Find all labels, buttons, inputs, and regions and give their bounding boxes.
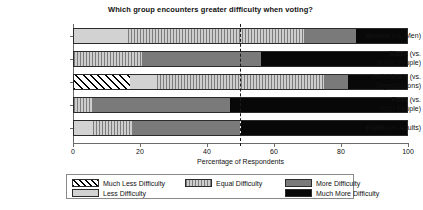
bar-segment-equal [73,51,142,67]
y-label-group: Poor [392,96,408,103]
legend-label: Equal Difficulty [216,180,262,187]
y-label-group: Youth [365,124,384,131]
x-axis-tick-label: 100 [393,148,423,155]
x-axis-tick [207,143,208,147]
y-axis-label: Youth (vs. Adults) [351,124,421,133]
y-axis-tick [70,105,73,106]
fifty-percent-reference-line [240,24,241,146]
y-axis-label: Women (vs. Men) [351,32,421,41]
bar-segment-less [73,28,128,44]
y-label-group: Individuals [371,73,408,80]
x-axis-title: Percentage of Respondents [73,158,408,165]
y-label-group: Women [365,32,390,39]
y-axis-tick [70,59,73,60]
y-label-comparison: (vs. [408,50,421,57]
legend-label: Less Difficulty [103,190,146,197]
legend-label: Much Less Difficulty [103,180,165,187]
legend-item-equal[interactable]: Equal Difficulty [185,178,262,188]
bar-segment-equal [128,28,304,44]
x-axis-tick [408,143,409,147]
x-axis-tick [274,143,275,147]
y-label-comparison: White People) [377,59,421,66]
x-axis-tick-label: 60 [259,148,289,155]
bar-segment-equal [73,97,93,113]
x-axis-tick-label: 80 [326,148,356,155]
legend-swatch-more [285,179,312,187]
x-axis-tick-label: 20 [125,148,155,155]
y-axis-tick [70,36,73,37]
y-label-comparison: (vs. [408,73,421,80]
bar-segment-less [130,74,157,90]
legend-label: More Difficulty [316,180,360,187]
legend-item-much_more[interactable]: Much More Difficulty [285,188,379,198]
y-label-comparison: Rich People) [381,105,421,112]
x-axis-tick-label: 0 [58,148,88,155]
y-axis-tick [70,128,73,129]
bar-segment-more [304,28,356,44]
x-axis-tick [140,143,141,147]
legend-swatch-much_more [285,189,312,197]
legend-swatch-less [72,189,99,197]
bar-segment-less [73,120,93,136]
chart-legend: Much Less DifficultyLess DifficultyEqual… [66,174,354,199]
x-axis-line [73,143,409,144]
x-axis-tick [341,143,342,147]
legend-item-much_less[interactable]: Much Less Difficulty [72,178,165,188]
y-label-group: Black [389,50,408,57]
bar-segment-much_less [73,74,130,90]
y-axis-label: Black (vs.White People) [351,50,421,67]
y-label-comparison: (vs. Adults) [384,124,421,131]
legend-swatch-much_less [72,179,99,187]
legend-swatch-equal [185,179,212,187]
bar-segment-more [142,51,261,67]
y-label-comparison: (vs. [408,96,421,103]
bar-segment-more [133,120,240,136]
chart-title: Which group encounters greater difficult… [0,5,421,14]
y-label-comparison: (vs. Men) [390,32,421,39]
bar-segment-equal [93,120,133,136]
y-axis-label: Poor (vs.Rich People) [351,96,421,113]
y-label-comparison: Organizations) [375,82,421,89]
legend-label: Much More Difficulty [316,190,379,197]
bar-segment-more [324,74,347,90]
bar-segment-more [93,97,230,113]
y-axis-label: Individuals (vs.Organizations) [351,73,421,90]
x-axis-tick-label: 40 [192,148,222,155]
x-axis-tick [73,143,74,147]
legend-item-more[interactable]: More Difficulty [285,178,360,188]
legend-item-less[interactable]: Less Difficulty [72,188,146,198]
y-axis-tick [70,82,73,83]
